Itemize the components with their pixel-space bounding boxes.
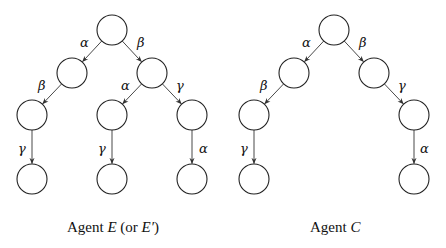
tree-node xyxy=(97,100,127,130)
edge-label: α xyxy=(199,141,208,156)
edge-arrow xyxy=(43,84,62,104)
tree-node xyxy=(239,164,269,194)
caption-var-e-prime: E′ xyxy=(142,219,154,235)
tree-node xyxy=(279,58,309,88)
edge-label: α xyxy=(420,141,429,156)
edge-label: α xyxy=(80,35,89,50)
tree-node xyxy=(137,58,167,88)
caption-mid: (or xyxy=(117,219,142,235)
caption-prefix: Agent xyxy=(67,219,107,235)
tree-node xyxy=(239,100,269,130)
caption-agent-c: Agent C xyxy=(310,219,360,236)
tree-node xyxy=(359,58,389,88)
caption-var-e: E xyxy=(107,219,116,235)
edge-label: β xyxy=(136,35,145,50)
edge-label: β xyxy=(37,78,46,93)
caption-var-c: C xyxy=(350,219,360,235)
tree-node xyxy=(57,58,87,88)
edge-arrow xyxy=(265,84,284,104)
tree-node xyxy=(177,164,207,194)
edge-label: α xyxy=(121,78,130,93)
edge-label: γ xyxy=(240,141,248,156)
edge-label: γ xyxy=(98,141,106,156)
caption-prefix: Agent xyxy=(310,219,350,235)
tree-node xyxy=(319,15,349,45)
caption-end: ) xyxy=(154,219,159,235)
edge-label: β xyxy=(259,78,268,93)
tree-node xyxy=(97,15,127,45)
tree-diagram-canvas: αββαγγγααββγγα xyxy=(0,0,446,248)
tree-node xyxy=(177,100,207,130)
tree-node xyxy=(97,164,127,194)
caption-agent-e: Agent E (or E′) xyxy=(67,219,159,236)
tree-node xyxy=(399,164,429,194)
edge-label: γ xyxy=(18,141,26,156)
tree-node xyxy=(17,164,47,194)
edge-label: β xyxy=(358,35,367,50)
tree-node xyxy=(17,100,47,130)
edge-label: γ xyxy=(176,78,184,93)
edge-label: α xyxy=(302,35,311,50)
tree-node xyxy=(399,100,429,130)
edge-label: γ xyxy=(398,78,406,93)
